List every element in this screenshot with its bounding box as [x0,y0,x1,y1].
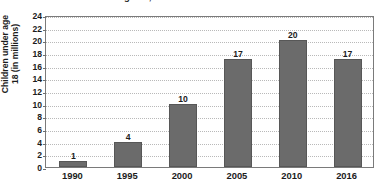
bar[interactable] [279,40,307,167]
y-axis-tick-label: 20 [32,36,42,46]
y-axis-tick-mark [43,55,46,56]
bar-value-label: 17 [343,49,353,59]
plot-area: 1410172017 [45,16,374,168]
y-axis-title-line-1: Children under age [0,15,10,93]
y-axis-tick-mark [43,93,46,94]
y-axis-tick-label: 4 [37,138,42,148]
y-axis-tick-label: 0 [37,163,42,173]
bar[interactable] [169,104,197,167]
bar-value-label: 17 [233,49,243,59]
bar[interactable] [334,59,362,167]
x-axis-tick-label: 2010 [281,170,302,181]
y-axis-tick-label: 22 [32,24,42,34]
x-axis-tick-label: 2016 [336,170,357,181]
y-axis-tick-label: 16 [32,62,42,72]
y-axis-tick-mark [43,156,46,157]
chart-screenshot: Children under age 18, 1990-2016 Childre… [0,0,383,191]
bar-series: 1410172017 [46,17,373,167]
y-axis-tick-label: 24 [32,11,42,21]
chart-title: Children under age 18, 1990-2016 [47,0,347,2]
y-axis-tick-mark [43,30,46,31]
bar[interactable] [224,59,252,167]
y-axis-tick-label: 8 [37,112,42,122]
y-axis-tick-mark [43,131,46,132]
bar-slot: 1 [46,17,101,167]
bar-value-label: 10 [178,94,188,104]
y-axis-tick-mark [43,144,46,145]
x-axis-tick-label: 2000 [172,170,193,181]
y-axis-tick-label: 2 [37,150,42,160]
x-axis-tick-label: 2005 [226,170,247,181]
y-axis-tick-label: 10 [32,100,42,110]
bar-value-label: 4 [126,132,131,142]
y-axis-tick-mark [43,17,46,18]
y-axis-tick-mark [43,42,46,43]
bar-slot: 4 [101,17,156,167]
y-axis-tick-labels: 242220181614121086420 [22,16,42,168]
x-axis-tick-label: 1995 [117,170,138,181]
bar-value-label: 1 [71,151,76,161]
y-axis-tick-label: 14 [32,74,42,84]
x-axis-tick-labels: 199019952000200520102016 [45,170,374,186]
y-axis-tick-label: 12 [32,87,42,97]
bar-value-label: 20 [288,30,298,40]
bar[interactable] [114,142,142,167]
bar-slot: 20 [265,17,320,167]
y-axis-tick-mark [43,106,46,107]
bar-slot: 10 [156,17,211,167]
bar[interactable] [59,161,87,167]
bar-slot: 17 [211,17,266,167]
y-axis-tick-label: 6 [37,125,42,135]
y-axis-tick-label: 18 [32,49,42,59]
x-axis-tick-label: 1990 [62,170,83,181]
bar-slot: 17 [320,17,373,167]
y-axis-tick-mark [43,118,46,119]
y-axis-tick-mark [43,80,46,81]
y-axis-title-line-2: 18 (in millions) [10,24,21,84]
y-axis-title: Children under age 18 (in millions) [0,0,22,119]
y-axis-tick-mark [43,68,46,69]
